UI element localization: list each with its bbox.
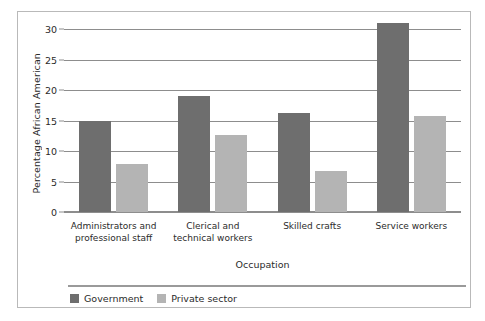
bar — [278, 113, 310, 212]
x-axis-tick-label-line: Administrators and — [64, 221, 163, 233]
bar — [178, 96, 210, 212]
bar — [215, 135, 247, 212]
y-axis-tick-label: 0 — [51, 207, 57, 218]
x-axis-tick-label: Skilled crafts — [263, 221, 362, 233]
bar — [414, 116, 446, 212]
bar — [315, 171, 347, 212]
x-axis-tick-label-line: Service workers — [362, 221, 461, 233]
y-axis-tick-mark — [59, 29, 64, 30]
chart-figure: Percentage African American 051015202530… — [17, 11, 471, 308]
x-axis-tick-label-line: professional staff — [64, 233, 163, 245]
x-axis-title: Occupation — [64, 259, 461, 270]
bar — [377, 23, 409, 212]
x-axis-tick-label-line: Clerical and — [163, 221, 262, 233]
legend-item: Government — [70, 293, 143, 304]
y-axis-tick-label: 10 — [45, 146, 57, 157]
y-axis-tick-mark — [59, 59, 64, 60]
y-axis-tick-label: 20 — [45, 85, 57, 96]
y-axis-tick-mark — [59, 181, 64, 182]
x-axis-tick-label: Administrators andprofessional staff — [64, 221, 163, 244]
legend-label: Private sector — [171, 293, 237, 304]
y-axis-tick-mark — [59, 120, 64, 121]
y-axis-tick-mark — [59, 151, 64, 152]
y-axis-title: Percentage African American — [31, 32, 42, 215]
x-axis-tick-label-line: technical workers — [163, 233, 262, 245]
legend-swatch — [70, 294, 79, 303]
y-axis-tick-mark — [59, 90, 64, 91]
bar — [79, 121, 111, 213]
x-axis-tick-label: Clerical andtechnical workers — [163, 221, 262, 244]
legend-item: Private sector — [157, 293, 237, 304]
bar — [116, 164, 148, 212]
chart-legend: GovernmentPrivate sector — [70, 293, 237, 304]
y-axis-title-text: Percentage African American — [31, 53, 42, 194]
legend-label: Government — [84, 293, 143, 304]
plot-area: 051015202530 Administrators andprofessio… — [64, 29, 461, 212]
x-axis-tick-label-line: Skilled crafts — [263, 221, 362, 233]
x-axis-tick-label: Service workers — [362, 221, 461, 233]
y-axis-tick-mark — [59, 212, 64, 213]
y-axis-tick-label: 30 — [45, 24, 57, 35]
y-axis-tick-label: 5 — [51, 176, 57, 187]
legend-swatch — [157, 294, 166, 303]
legend-separator — [68, 285, 466, 287]
y-axis-tick-label: 25 — [45, 54, 57, 65]
y-axis-tick-label: 15 — [45, 115, 57, 126]
